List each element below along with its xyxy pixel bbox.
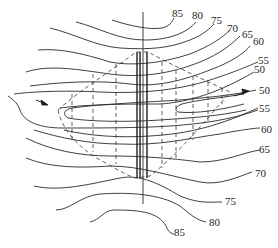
outflow-arrow-icon [242, 89, 249, 94]
central-structure [137, 12, 147, 204]
contour-diagram: 85 80 75 70 65 60 55 50 50 55 60 65 70 7… [0, 0, 278, 248]
contour-map-svg: 85 80 75 70 65 60 55 50 50 55 60 65 70 7… [0, 0, 278, 248]
label-60-right: 60 [261, 123, 273, 135]
label-50-right: 50 [259, 84, 271, 96]
label-65-right: 65 [259, 143, 271, 155]
inflow-arrow-icon [41, 100, 48, 105]
contour-80-top [76, 22, 196, 40]
contour-lines-top [14, 18, 258, 108]
label-75-right: 75 [225, 195, 237, 207]
contour-65-top [26, 36, 240, 76]
label-85-top: 85 [172, 7, 184, 19]
dashed-region [58, 52, 230, 178]
contour-85-bottom [90, 210, 174, 234]
contour-50-top [60, 72, 254, 108]
label-80-top: 80 [192, 9, 204, 21]
contour-55-top [14, 62, 258, 94]
label-50-top: 50 [254, 63, 266, 75]
contour-70-bottom [26, 158, 252, 183]
label-75-top: 75 [211, 14, 223, 26]
label-55-right: 55 [259, 102, 271, 114]
label-70-top: 70 [227, 22, 239, 34]
label-60-top: 60 [253, 35, 265, 47]
label-70-right: 70 [255, 167, 267, 179]
label-65-top: 65 [242, 28, 254, 40]
label-85-bottom: 85 [174, 226, 186, 238]
label-80-right: 80 [209, 216, 221, 228]
contour-70-top [38, 30, 230, 64]
diamond-boundary-lower [58, 92, 230, 178]
contour-loops [8, 90, 258, 128]
